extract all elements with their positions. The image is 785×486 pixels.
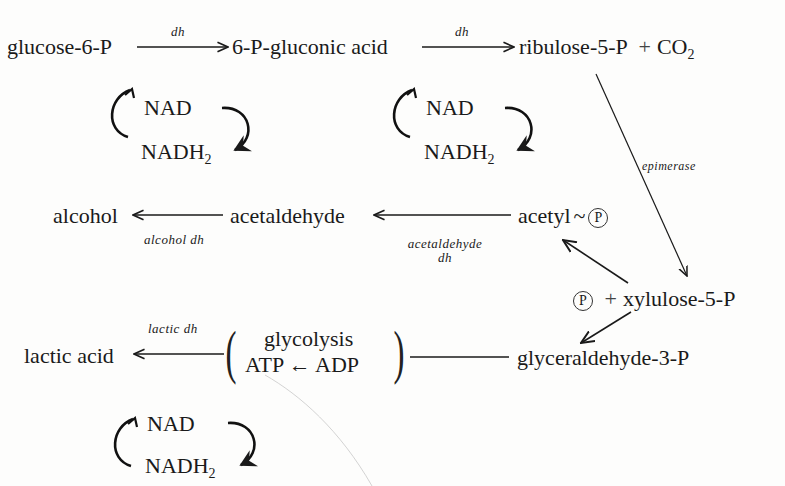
enzyme-acetaldehyde-dh-line2: dh	[390, 251, 500, 265]
ribulose-5-p: ribulose-5-P	[519, 34, 627, 59]
node-acetaldehyde: acetaldehyde	[230, 205, 345, 227]
phosphate-circle-icon: P	[573, 291, 593, 311]
node-alcohol: alcohol	[53, 205, 118, 227]
enzyme-dh-1: dh	[171, 25, 185, 38]
phosphate-circle-icon: P	[588, 208, 608, 228]
node-atp-adp: ATP ← ADP	[245, 354, 359, 376]
co2: CO2	[657, 34, 695, 59]
cofactor-2-nad: NAD	[426, 97, 474, 119]
node-6-p-gluconic-acid: 6-P-gluconic acid	[232, 36, 388, 58]
arrow-ribulose-to-xylulose	[596, 74, 687, 276]
node-acetyl-phosphate: acetyl~P	[518, 205, 608, 228]
enzyme-epimerase: epimerase	[642, 160, 696, 172]
right-parenthesis: )	[393, 322, 404, 382]
nadh-base: NADH	[141, 139, 205, 164]
cofactor-1-nadh2: NADH2	[141, 141, 212, 167]
cofactor-3-nad: NAD	[147, 413, 195, 435]
node-phosphate-xylulose: P +xylulose-5-P	[573, 288, 735, 311]
cofactor-2-nadh2: NADH2	[424, 141, 495, 167]
node-ribulose-5-p-co2: ribulose-5-P +CO2	[519, 36, 694, 62]
nadh-base: NADH	[145, 453, 209, 478]
scan-artifact-line	[265, 375, 372, 486]
enzyme-acetaldehyde-dh-line1: acetaldehyde	[390, 237, 500, 251]
nadh-base: NADH	[424, 139, 488, 164]
plus-sign: +	[605, 286, 617, 311]
tilde-bond: ~	[574, 203, 586, 228]
node-glucose-6-p: glucose-6-P	[7, 36, 112, 58]
pathway-diagram: glucose-6-P dh 6-P-gluconic acid dh ribu…	[0, 0, 785, 486]
left-parenthesis: (	[225, 322, 236, 382]
plus-sign: +	[638, 34, 650, 59]
nadh-subscript: 2	[488, 152, 495, 167]
arrow-xylulose-to-glyceraldehyde	[581, 312, 631, 343]
nadh-subscript: 2	[205, 152, 212, 167]
co2-base: CO	[657, 34, 688, 59]
node-lactic-acid: lactic acid	[24, 345, 114, 367]
node-glycolysis: glycolysis	[264, 328, 353, 350]
cofactor-1-nad: NAD	[144, 97, 192, 119]
enzyme-alcohol-dh: alcohol dh	[144, 233, 204, 246]
nadh-subscript: 2	[209, 466, 216, 481]
node-glyceraldehyde-3-p: glyceraldehyde-3-P	[517, 347, 689, 369]
enzyme-dh-2: dh	[455, 25, 469, 38]
acetyl: acetyl	[518, 203, 571, 228]
enzyme-acetaldehyde-dh: acetaldehyde dh	[390, 237, 500, 265]
enzyme-lactic-dh: lactic dh	[148, 322, 198, 335]
cofactor-3-nadh2: NADH2	[145, 455, 216, 481]
arrow-xylulose-to-acetyl	[563, 240, 628, 283]
xylulose-5-p: xylulose-5-P	[623, 286, 735, 311]
co2-subscript: 2	[687, 47, 694, 62]
